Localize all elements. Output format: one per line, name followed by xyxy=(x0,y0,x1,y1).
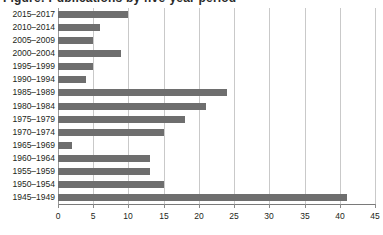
tick-label-0: 0 xyxy=(46,211,70,221)
tick-label-40: 40 xyxy=(328,211,352,221)
tick-label-20: 20 xyxy=(187,211,211,221)
category-label: 2010–2014 xyxy=(12,21,55,34)
tick-mark-45 xyxy=(375,204,376,208)
bar xyxy=(58,181,164,188)
bar-chart-figure: Figure: Publications by five-year period… xyxy=(0,0,383,235)
bar xyxy=(58,63,93,70)
bar xyxy=(58,11,128,18)
category-label: 1975–1979 xyxy=(12,113,55,126)
category-label: 1965–1969 xyxy=(12,139,55,152)
bar xyxy=(58,103,206,110)
tick-label-35: 35 xyxy=(293,211,317,221)
x-axis-line xyxy=(58,204,375,205)
tick-mark-25 xyxy=(234,204,235,208)
tick-mark-15 xyxy=(164,204,165,208)
tick-label-30: 30 xyxy=(257,211,281,221)
tick-mark-10 xyxy=(128,204,129,208)
category-label: 1995–1999 xyxy=(12,60,55,73)
gridline-30 xyxy=(269,8,270,204)
category-label: 1960–1964 xyxy=(12,152,55,165)
category-label: 1955–1959 xyxy=(12,165,55,178)
bar xyxy=(58,129,164,136)
category-label: 1985–1989 xyxy=(12,86,55,99)
bar xyxy=(58,142,72,149)
tick-mark-5 xyxy=(93,204,94,208)
tick-label-10: 10 xyxy=(116,211,140,221)
bar xyxy=(58,194,347,201)
bar xyxy=(58,50,121,57)
bar xyxy=(58,168,150,175)
category-label: 1950–1954 xyxy=(12,178,55,191)
category-axis-labels: 2015–20172010–20142005–20092000–20041995… xyxy=(0,8,55,204)
tick-mark-30 xyxy=(269,204,270,208)
tick-mark-35 xyxy=(305,204,306,208)
bar xyxy=(58,116,185,123)
category-label: 2005–2009 xyxy=(12,34,55,47)
bar xyxy=(58,37,93,44)
tick-label-45: 45 xyxy=(363,211,383,221)
gridline-45 xyxy=(375,8,376,204)
tick-label-25: 25 xyxy=(222,211,246,221)
category-label: 1980–1984 xyxy=(12,100,55,113)
clipped-title-strip: Figure: Publications by five-year period xyxy=(0,0,383,8)
category-label: 1945–1949 xyxy=(12,191,55,204)
gridline-40 xyxy=(340,8,341,204)
plot-area xyxy=(58,8,375,204)
tick-mark-40 xyxy=(340,204,341,208)
category-label: 1990–1994 xyxy=(12,73,55,86)
tick-label-15: 15 xyxy=(152,211,176,221)
category-label: 2000–2004 xyxy=(12,47,55,60)
bar xyxy=(58,155,150,162)
gridline-35 xyxy=(305,8,306,204)
bar xyxy=(58,76,86,83)
gridline-25 xyxy=(234,8,235,204)
category-label: 2015–2017 xyxy=(12,8,55,21)
tick-mark-0 xyxy=(58,204,59,208)
plot-wrapper: 2015–20172010–20142005–20092000–20041995… xyxy=(0,8,383,235)
category-label: 1970–1974 xyxy=(12,126,55,139)
tick-label-5: 5 xyxy=(81,211,105,221)
tick-mark-20 xyxy=(199,204,200,208)
bar xyxy=(58,89,227,96)
bar xyxy=(58,24,100,31)
page-title: Figure: Publications by five-year period xyxy=(3,0,236,5)
